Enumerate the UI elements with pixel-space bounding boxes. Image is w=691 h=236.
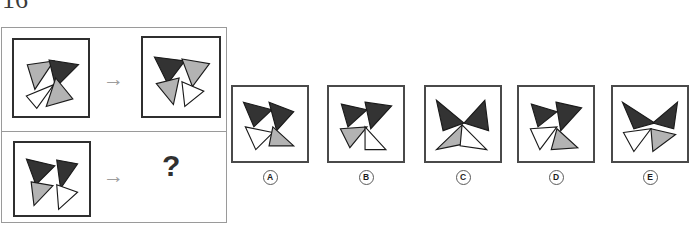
figure-source-row1 xyxy=(12,38,90,118)
option-e-figure-triangle-2 xyxy=(653,102,678,129)
option-a-label: A xyxy=(263,170,278,185)
four-triangle-cluster-question-triangle-4 xyxy=(57,185,78,210)
option-c-figure-triangle-2 xyxy=(464,100,489,130)
option-a-figure-triangle-4 xyxy=(269,127,294,146)
option-c-box[interactable] xyxy=(424,85,502,163)
option-b-label: B xyxy=(359,170,374,185)
stimulus-panel: → → ? xyxy=(1,27,227,223)
option-c-figure-triangle-1 xyxy=(436,100,464,130)
option-b-box[interactable] xyxy=(327,85,405,163)
question-mark: ? xyxy=(162,151,180,181)
option-e-label-wrap: E xyxy=(611,170,689,185)
option-a-figure xyxy=(233,87,307,161)
four-triangle-cluster-question-triangle-2 xyxy=(57,160,78,188)
option-e-box[interactable] xyxy=(611,85,689,163)
option-a-label-wrap: A xyxy=(231,170,309,185)
option-b[interactable]: B xyxy=(327,85,405,185)
option-d-figure-triangle-4 xyxy=(551,129,578,150)
option-a-box[interactable] xyxy=(231,85,309,163)
option-c-label: C xyxy=(456,170,471,185)
option-b-figure-triangle-3 xyxy=(340,127,367,148)
figure-source-row2 xyxy=(13,141,91,217)
option-d-figure-triangle-1 xyxy=(531,104,557,127)
option-a[interactable]: A xyxy=(231,85,309,185)
option-d[interactable]: D xyxy=(517,85,595,185)
option-b-figure-triangle-1 xyxy=(341,104,367,127)
figure-source-row1-svg xyxy=(14,40,88,116)
four-triangle-cluster-target-triangle-2 xyxy=(182,59,210,87)
stimulus-row-1: → xyxy=(2,28,226,131)
page-number: 16 xyxy=(2,0,28,13)
option-b-figure-triangle-2 xyxy=(365,102,392,129)
option-e-figure xyxy=(613,87,687,161)
four-triangle-cluster-source-triangle-4 xyxy=(46,78,73,106)
option-e-figure-triangle-1 xyxy=(622,102,654,129)
option-d-label: D xyxy=(549,170,564,185)
option-e[interactable]: E xyxy=(611,85,689,185)
option-e-figure-triangle-4 xyxy=(651,129,676,152)
four-triangle-cluster-target-triangle-3 xyxy=(156,78,179,105)
four-triangle-cluster-question-triangle-3 xyxy=(31,182,53,206)
option-d-figure-triangle-2 xyxy=(556,102,582,130)
option-c-figure xyxy=(426,87,500,161)
four-triangle-cluster-target-triangle-1 xyxy=(154,57,184,84)
option-b-figure xyxy=(329,87,403,161)
option-e-label: E xyxy=(643,170,658,185)
option-d-box[interactable] xyxy=(517,85,595,163)
figure-target-row1-svg xyxy=(143,38,219,116)
option-a-figure-triangle-1 xyxy=(243,102,271,127)
four-triangle-cluster-question-triangle-1 xyxy=(26,159,54,185)
option-c[interactable]: C xyxy=(424,85,502,185)
option-b-label-wrap: B xyxy=(327,170,405,185)
option-b-figure-triangle-4 xyxy=(365,127,386,150)
arrow-icon-row1: → xyxy=(103,68,124,89)
answer-options: A B C D xyxy=(231,85,691,200)
option-c-label-wrap: C xyxy=(424,170,502,185)
option-d-label-wrap: D xyxy=(517,170,595,185)
figure-target-row1 xyxy=(141,36,221,118)
stimulus-row-2: → ? xyxy=(2,131,226,224)
puzzle-page: 16 → → ? A xyxy=(0,0,691,236)
figure-source-row2-svg xyxy=(15,143,89,215)
option-e-figure-triangle-3 xyxy=(623,129,651,152)
option-d-figure xyxy=(519,87,593,161)
arrow-icon-row2: → xyxy=(103,165,124,186)
